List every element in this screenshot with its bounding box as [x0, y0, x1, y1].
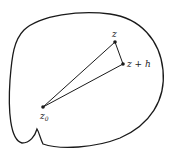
triangle-z0-z-zh [43, 42, 123, 107]
label-z0: z0 [39, 111, 49, 122]
point-z0 [41, 105, 45, 109]
point-z-plus-h [121, 62, 125, 66]
point-z [113, 40, 117, 44]
label-z: z [111, 29, 117, 39]
label-z-plus-h: z + h [126, 59, 151, 69]
region-outline [9, 13, 163, 148]
diagram-canvas: z z + h z0 [0, 0, 169, 155]
label-z0-subscript: 0 [45, 115, 49, 122]
